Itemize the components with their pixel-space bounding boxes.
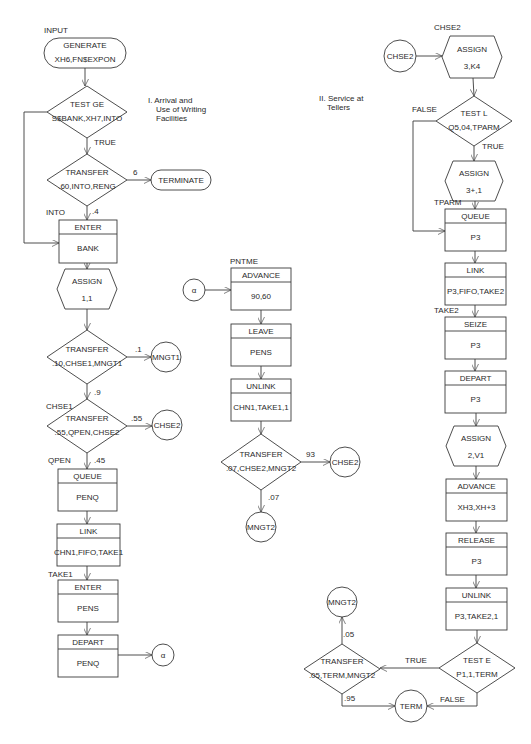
hexagon-operand: 2,V1 bbox=[468, 451, 485, 460]
node-link1: LINKCHN1,FIFO,TAKE1 bbox=[54, 524, 124, 566]
node-teste: TEST EP1,1,TERM bbox=[439, 643, 515, 693]
block-operand: P3 bbox=[471, 233, 481, 242]
connector-label: α bbox=[192, 286, 197, 295]
node-depart-penq: DEPARTPENQ bbox=[58, 635, 118, 677]
edge-label: TRUE bbox=[94, 138, 116, 147]
block-location-label: TAKE1 bbox=[48, 570, 73, 579]
block-operand: BANK bbox=[77, 244, 99, 253]
block-operand: PENQ bbox=[76, 493, 99, 502]
node-queue-p3: QUEUEP3 bbox=[445, 209, 506, 251]
section-heading: II. Service at bbox=[319, 94, 364, 103]
decision-operand: P1,1,TERM bbox=[456, 670, 498, 679]
edge-label: .45 bbox=[94, 456, 106, 465]
node-enter-bank: ENTERBANK bbox=[59, 220, 117, 263]
terminal-operand: XH6,FN$EXPON bbox=[55, 55, 116, 64]
node-leave: LEAVEPENS bbox=[231, 324, 291, 366]
edge-label: TRUE bbox=[482, 142, 504, 151]
hexagon-title: ASSIGN bbox=[457, 45, 487, 54]
node-mngt2-b: MNGT2 bbox=[327, 587, 357, 617]
decision-operand: .05,TERM,MNGT2 bbox=[309, 671, 376, 680]
connector-label: MNGT2 bbox=[247, 523, 276, 532]
node-assign3k4: ASSIGN3,K4 bbox=[442, 36, 502, 78]
block-title: SEIZE bbox=[464, 320, 487, 329]
node-release: RELEASEP3 bbox=[446, 533, 507, 575]
block-title: ENTER bbox=[74, 583, 101, 592]
block-location-label: PNTME bbox=[230, 257, 258, 266]
edge-label: .1 bbox=[135, 345, 142, 354]
node-testl: TEST LQ5,04,TPARM bbox=[436, 96, 512, 146]
decision-diamond bbox=[304, 644, 380, 694]
block-title: DEPART bbox=[72, 638, 104, 647]
hexagon-operand: 1,1 bbox=[81, 294, 93, 303]
section-label-sec2: II. Service atTellers bbox=[319, 94, 364, 112]
block-title: ADVANCE bbox=[457, 482, 495, 491]
section-label-sec1: I. Arrival andUse of WritingFacilities bbox=[148, 96, 206, 123]
node-assign11: ASSIGN1,1 bbox=[57, 269, 117, 309]
section-heading: Tellers bbox=[327, 103, 350, 112]
node-enter-pens: ENTERPENS bbox=[58, 580, 118, 622]
decision-operand: .55,QPEN,CHSE2 bbox=[55, 428, 120, 437]
connector-label: CHSE2 bbox=[332, 458, 359, 467]
block-title: QUEUE bbox=[461, 212, 489, 221]
connector-label: MNGT1 bbox=[152, 353, 181, 362]
node-chse2-b: CHSE2 bbox=[330, 447, 360, 477]
block-operand: P3 bbox=[472, 557, 482, 566]
node-mngt1: MNGT1 bbox=[151, 342, 181, 372]
node-transfer5: TRANSFER.05,TERM,MNGT2 bbox=[304, 644, 380, 694]
decision-title: TRANSFER bbox=[65, 168, 108, 177]
edge-label: TRUE bbox=[405, 656, 427, 665]
edge-label: FALSE bbox=[412, 105, 437, 114]
hexagon-title: ASSIGN bbox=[459, 169, 489, 178]
node-chse2-in: CHSE2 bbox=[384, 40, 416, 72]
block-location-label: INTO bbox=[46, 208, 65, 217]
edge-label: .95 bbox=[344, 694, 356, 703]
node-transfer2: TRANSFER.10,CHSE1,MNGT1 bbox=[47, 330, 127, 384]
node-transfer1: TRANSFER.60,INTO,RENG bbox=[47, 154, 127, 206]
block-location-label: TPARM bbox=[434, 198, 462, 207]
node-alpha-in: α bbox=[183, 279, 205, 301]
decision-title: TEST E bbox=[463, 656, 491, 665]
node-term: TERM bbox=[395, 690, 427, 722]
decision-diamond bbox=[439, 643, 515, 693]
edge-label: .4 bbox=[92, 207, 99, 216]
block-operand: PENS bbox=[77, 604, 99, 613]
hexagon-operand: 3,K4 bbox=[464, 62, 481, 71]
terminal-title: GENERATE bbox=[63, 41, 106, 50]
assign-hexagon bbox=[446, 426, 506, 466]
block-location-label: CHSE1 bbox=[46, 402, 73, 411]
block-operand: CHN1,TAKE1,1 bbox=[233, 403, 289, 412]
node-seize: SEIZEP3 bbox=[445, 317, 506, 359]
hexagon-operand: 3+,1 bbox=[466, 186, 482, 195]
block-operand: XH3,XH+3 bbox=[457, 503, 496, 512]
assign-hexagon bbox=[442, 36, 502, 78]
edge-label: .55 bbox=[131, 414, 143, 423]
connector-label: TERM bbox=[400, 702, 423, 711]
block-location-label: INPUT bbox=[44, 26, 68, 35]
block-title: LEAVE bbox=[248, 327, 273, 336]
block-operand: P3 bbox=[471, 341, 481, 350]
node-chse2-a: CHSE2 bbox=[152, 410, 182, 440]
assign-hexagon bbox=[445, 161, 503, 201]
node-unlink1: UNLINKCHN1,TAKE1,1 bbox=[231, 379, 291, 421]
edge-label: 93 bbox=[306, 450, 315, 459]
block-title: UNLINK bbox=[462, 591, 492, 600]
hexagon-title: ASSIGN bbox=[72, 277, 102, 286]
decision-diamond bbox=[221, 434, 301, 490]
edge-label: 6 bbox=[133, 168, 138, 177]
decision-operand: .07,CHSE2,MNGT2 bbox=[226, 464, 297, 473]
decision-diamond bbox=[47, 154, 127, 206]
hexagon-title: ASSIGN bbox=[461, 434, 491, 443]
node-transfer4: TRANSFER.07,CHSE2,MNGT2 bbox=[221, 434, 301, 490]
block-title: DEPART bbox=[460, 374, 492, 383]
node-mngt2-a: MNGT2 bbox=[246, 512, 276, 542]
connector-label: α bbox=[161, 651, 166, 660]
decision-title: TEST L bbox=[461, 109, 489, 118]
decision-diamond bbox=[436, 96, 512, 146]
node-assign2v1: ASSIGN2,V1 bbox=[446, 426, 506, 466]
connector-label: CHSE2 bbox=[154, 421, 181, 430]
block-location-label: TAKE2 bbox=[434, 306, 459, 315]
section-heading: I. Arrival and bbox=[148, 96, 192, 105]
decision-title: TRANSFER bbox=[320, 657, 363, 666]
terminal-title: TERMINATE bbox=[158, 176, 204, 185]
decision-title: TRANSFER bbox=[65, 414, 108, 423]
